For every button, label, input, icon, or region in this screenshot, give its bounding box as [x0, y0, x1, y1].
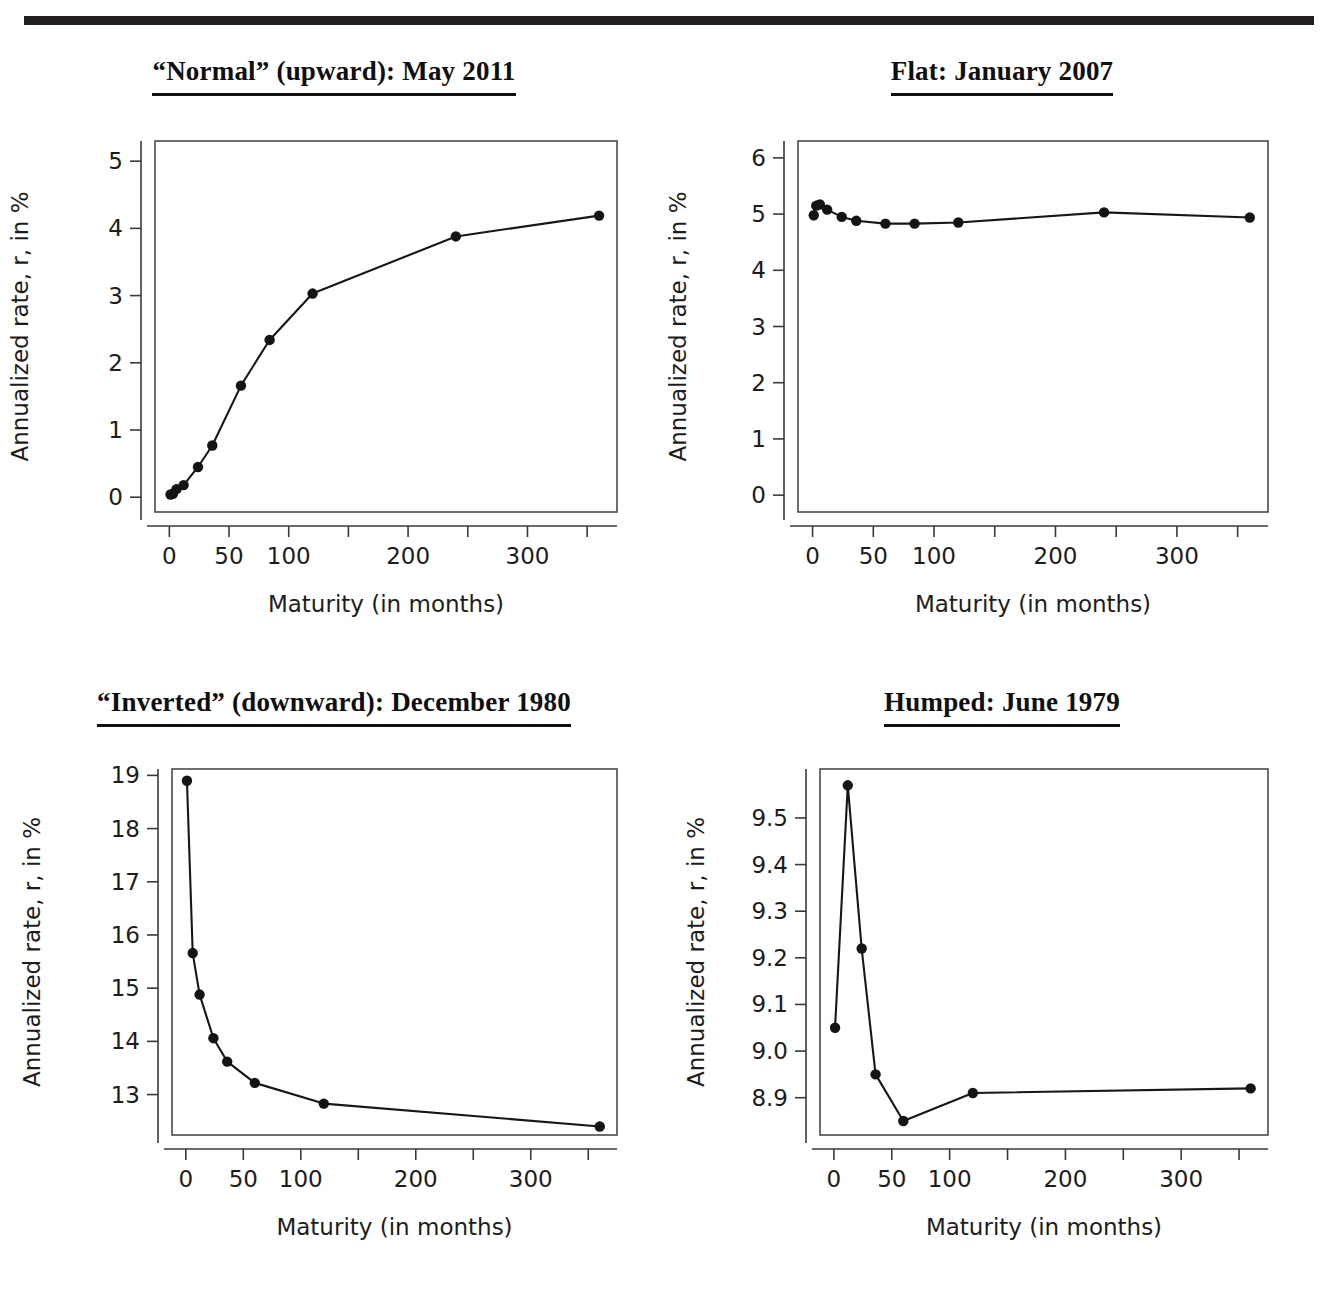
x-axis-title: Maturity (in months) [926, 1214, 1162, 1240]
data-point [451, 231, 461, 241]
data-point [188, 948, 198, 958]
y-tick-label: 18 [111, 816, 140, 842]
data-point [898, 1116, 908, 1126]
y-axis-title: Annualized rate, r, in % [7, 191, 33, 461]
panel-inverted: “Inverted” (downward): December 1980 050… [0, 673, 668, 1306]
data-point [319, 1098, 329, 1108]
data-point [909, 218, 919, 228]
x-tick-label: 100 [912, 543, 956, 569]
panel-title-humped: Humped: June 1979 [668, 687, 1336, 727]
x-axis-title: Maturity (in months) [276, 1214, 512, 1240]
y-tick-label: 8.9 [751, 1085, 788, 1111]
data-point [594, 210, 604, 220]
plot-frame [820, 769, 1268, 1135]
data-point [1245, 212, 1255, 222]
y-axis-title: Annualized rate, r, in % [19, 817, 45, 1087]
x-tick-label: 50 [859, 543, 888, 569]
data-point [809, 210, 819, 220]
data-point [264, 335, 274, 345]
data-point [595, 1121, 605, 1131]
x-tick-label: 50 [214, 543, 243, 569]
data-point [208, 1033, 218, 1043]
x-tick-label: 100 [279, 1166, 323, 1192]
data-point [307, 288, 317, 298]
chart-grid: “Normal” (upward): May 2011 050100200300… [0, 40, 1337, 1306]
x-axis-title: Maturity (in months) [268, 591, 504, 617]
x-tick-label: 200 [394, 1166, 438, 1192]
chart-canvas: 0501002003000123456Maturity (in months)A… [668, 118, 1336, 673]
data-point [830, 1023, 840, 1033]
y-tick-label: 16 [111, 922, 140, 948]
data-point [870, 1069, 880, 1079]
x-tick-label: 200 [386, 543, 430, 569]
y-tick-label: 5 [751, 201, 766, 227]
x-tick-label: 300 [509, 1166, 553, 1192]
data-point [182, 776, 192, 786]
x-axis-title: Maturity (in months) [915, 591, 1151, 617]
data-point [843, 780, 853, 790]
panel-flat: Flat: January 2007 0501002003000123456Ma… [668, 40, 1336, 673]
data-point [822, 204, 832, 214]
plot-frame [155, 141, 617, 512]
x-tick-label: 300 [1155, 543, 1199, 569]
chart-canvas: 0501002003008.99.09.19.29.39.49.5Maturit… [668, 733, 1336, 1288]
data-point [1245, 1083, 1255, 1093]
panel-title-flat: Flat: January 2007 [668, 56, 1336, 96]
y-tick-label: 2 [751, 370, 766, 396]
x-tick-label: 100 [928, 1166, 972, 1192]
x-tick-label: 0 [178, 1166, 193, 1192]
plot-inverted: 05010020030013141516171819Maturity (in m… [0, 733, 668, 1288]
y-axis-title: Annualized rate, r, in % [683, 817, 709, 1087]
data-point [207, 440, 217, 450]
plot-frame [172, 769, 617, 1135]
panel-title-normal: “Normal” (upward): May 2011 [0, 56, 668, 96]
y-tick-label: 9.5 [751, 805, 788, 831]
data-point [222, 1056, 232, 1066]
series-line [171, 216, 600, 495]
y-axis-title: Annualized rate, r, in % [668, 191, 691, 461]
y-tick-label: 3 [108, 283, 123, 309]
data-point [236, 380, 246, 390]
x-tick-label: 0 [827, 1166, 842, 1192]
x-tick-label: 50 [229, 1166, 258, 1192]
series-line [814, 205, 1250, 224]
data-point [851, 216, 861, 226]
header-rule [24, 16, 1314, 25]
y-tick-label: 0 [108, 484, 123, 510]
x-tick-label: 100 [267, 543, 311, 569]
y-tick-label: 0 [751, 482, 766, 508]
data-point [194, 989, 204, 999]
y-tick-label: 3 [751, 314, 766, 340]
data-point [968, 1088, 978, 1098]
plot-flat: 0501002003000123456Maturity (in months)A… [668, 118, 1336, 673]
data-point [250, 1078, 260, 1088]
x-tick-label: 0 [162, 543, 177, 569]
data-point [1099, 207, 1109, 217]
y-tick-label: 5 [108, 148, 123, 174]
x-tick-label: 300 [1159, 1166, 1203, 1192]
plot-normal: 050100200300012345Maturity (in months)An… [0, 118, 668, 673]
plot-humped: 0501002003008.99.09.19.29.39.49.5Maturit… [668, 733, 1336, 1288]
chart-canvas: 050100200300012345Maturity (in months)An… [0, 118, 668, 673]
x-tick-label: 50 [877, 1166, 906, 1192]
panel-normal: “Normal” (upward): May 2011 050100200300… [0, 40, 668, 673]
data-point [837, 212, 847, 222]
plot-frame [798, 141, 1268, 512]
y-tick-label: 1 [751, 426, 766, 452]
data-point [193, 462, 203, 472]
data-point [856, 943, 866, 953]
y-tick-label: 19 [111, 762, 140, 788]
y-tick-label: 4 [751, 257, 766, 283]
x-tick-label: 0 [805, 543, 820, 569]
x-tick-label: 200 [1034, 543, 1078, 569]
y-tick-label: 4 [108, 215, 123, 241]
panel-humped: Humped: June 1979 0501002003008.99.09.19… [668, 673, 1336, 1306]
y-tick-label: 9.4 [751, 852, 788, 878]
y-tick-label: 15 [111, 975, 140, 1001]
y-tick-label: 9.2 [751, 945, 788, 971]
y-tick-label: 9.0 [751, 1038, 788, 1064]
y-tick-label: 2 [108, 350, 123, 376]
y-tick-label: 9.1 [751, 991, 788, 1017]
y-tick-label: 17 [111, 869, 140, 895]
panel-title-inverted: “Inverted” (downward): December 1980 [0, 687, 668, 727]
